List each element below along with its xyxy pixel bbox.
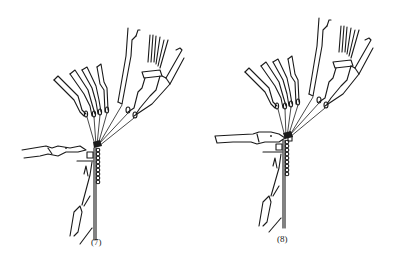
sinker	[215, 132, 292, 144]
presser-bar	[309, 18, 331, 96]
diagram-panel-8: (8)	[193, 0, 389, 267]
presser-bar	[118, 28, 140, 104]
mechanism-drawing-8	[193, 0, 389, 267]
guide-bars	[54, 64, 109, 145]
sinker	[22, 146, 86, 158]
guide-bars	[245, 56, 300, 137]
diagram-panel-7: (7)	[0, 0, 196, 267]
trick-plate	[70, 196, 92, 244]
needle	[77, 148, 100, 240]
trick-plate	[259, 186, 281, 232]
panel-caption-8: (8)	[277, 234, 288, 244]
needle	[263, 140, 289, 228]
comb-assembly	[98, 35, 184, 146]
panel-caption-7: (7)	[91, 237, 102, 247]
comb-assembly	[289, 26, 373, 137]
mechanism-drawing-7	[0, 0, 196, 267]
